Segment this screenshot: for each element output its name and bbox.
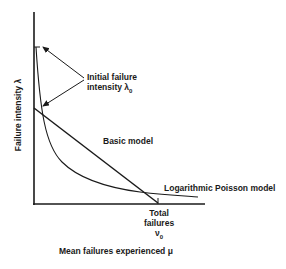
logarithmic-poisson-label: Logarithmic Poisson model (164, 183, 275, 193)
nu-sub: 0 (160, 234, 163, 240)
total-failures-label: Total failures ν0 (139, 208, 179, 242)
initial-intensity-text: intensity λ (87, 82, 129, 92)
basic-model-line (34, 108, 158, 203)
y-axis-label: Failure intensity λ (13, 65, 23, 165)
x-axis-label: Mean failures experienced μ (59, 246, 173, 256)
initial-intensity-line1: Initial failure (87, 72, 137, 82)
arrow-to-log-intercept (43, 47, 84, 78)
initial-intensity-line2: intensity λ0 (87, 82, 137, 96)
logarithmic-poisson-curve (36, 47, 198, 197)
total-failures-line1: Total (139, 208, 179, 218)
initial-intensity-sub: 0 (129, 88, 132, 94)
basic-model-label: Basic model (103, 136, 153, 146)
initial-intensity-label: Initial failure intensity λ0 (87, 72, 137, 96)
total-failures-symbol: ν0 (139, 228, 179, 242)
total-failures-line2: failures (139, 218, 179, 228)
arrow-to-basic-intercept (43, 80, 84, 106)
